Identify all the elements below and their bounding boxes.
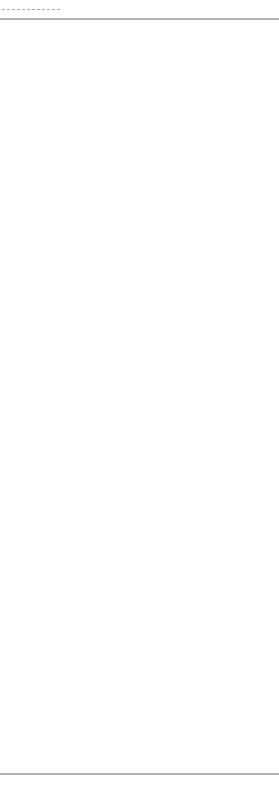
fold-diagram	[0, 0, 279, 786]
